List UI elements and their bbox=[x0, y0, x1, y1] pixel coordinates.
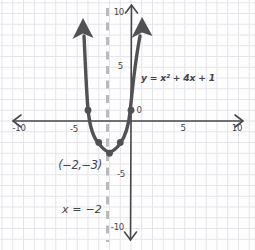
axis-of-symmetry-label: x = −2 bbox=[61, 203, 102, 216]
y-tick-10: 10 bbox=[114, 7, 124, 17]
vertex-label: (−2,−3) bbox=[58, 158, 102, 172]
x-tick-10: 10 bbox=[232, 123, 242, 133]
y-axis bbox=[125, 5, 138, 240]
equation-label: y = x² + 4x + 1 bbox=[141, 72, 215, 83]
graph-canvas: 10 5 -5 -10 0 -10 -5 5 10 y = x² + 4x + … bbox=[0, 0, 255, 250]
data-point bbox=[85, 107, 92, 114]
x-tick-5: 5 bbox=[180, 123, 185, 133]
quadratic-function-graph: 10 5 -5 -10 0 -10 -5 5 10 y = x² + 4x + … bbox=[0, 0, 255, 250]
y-tick-neg10: -10 bbox=[111, 222, 124, 232]
origin-label: 0 bbox=[137, 105, 142, 115]
x-tick-neg5: -5 bbox=[70, 124, 78, 134]
x-tick-neg10: -10 bbox=[12, 123, 25, 133]
data-point bbox=[106, 150, 113, 157]
y-tick-5: 5 bbox=[118, 61, 123, 71]
data-point bbox=[95, 139, 102, 146]
data-point bbox=[117, 139, 124, 146]
data-point bbox=[128, 107, 135, 114]
y-tick-neg5: -5 bbox=[117, 169, 125, 179]
